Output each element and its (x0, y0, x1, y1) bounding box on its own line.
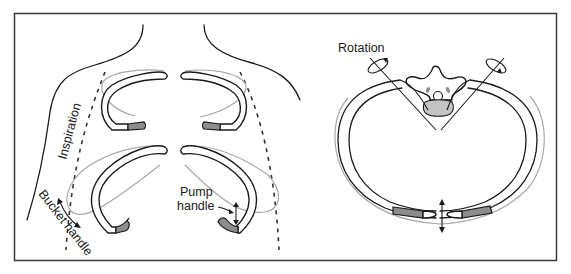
right-rib-end (447, 211, 462, 218)
left-rib-end (423, 211, 436, 218)
pump-handle-label-line2: handle (177, 199, 215, 213)
upper-right-cartilage (203, 122, 221, 130)
upper-left-cartilage (128, 122, 146, 130)
pump-handle-label-line1: Pump (180, 185, 213, 199)
figure-frame (15, 14, 557, 261)
rotation-label: Rotation (338, 41, 385, 55)
spinal-canal (434, 92, 443, 101)
vertebral-body (423, 100, 453, 117)
rib-movement-diagram: Inspiration Bucket handle Pump handle (0, 0, 571, 274)
